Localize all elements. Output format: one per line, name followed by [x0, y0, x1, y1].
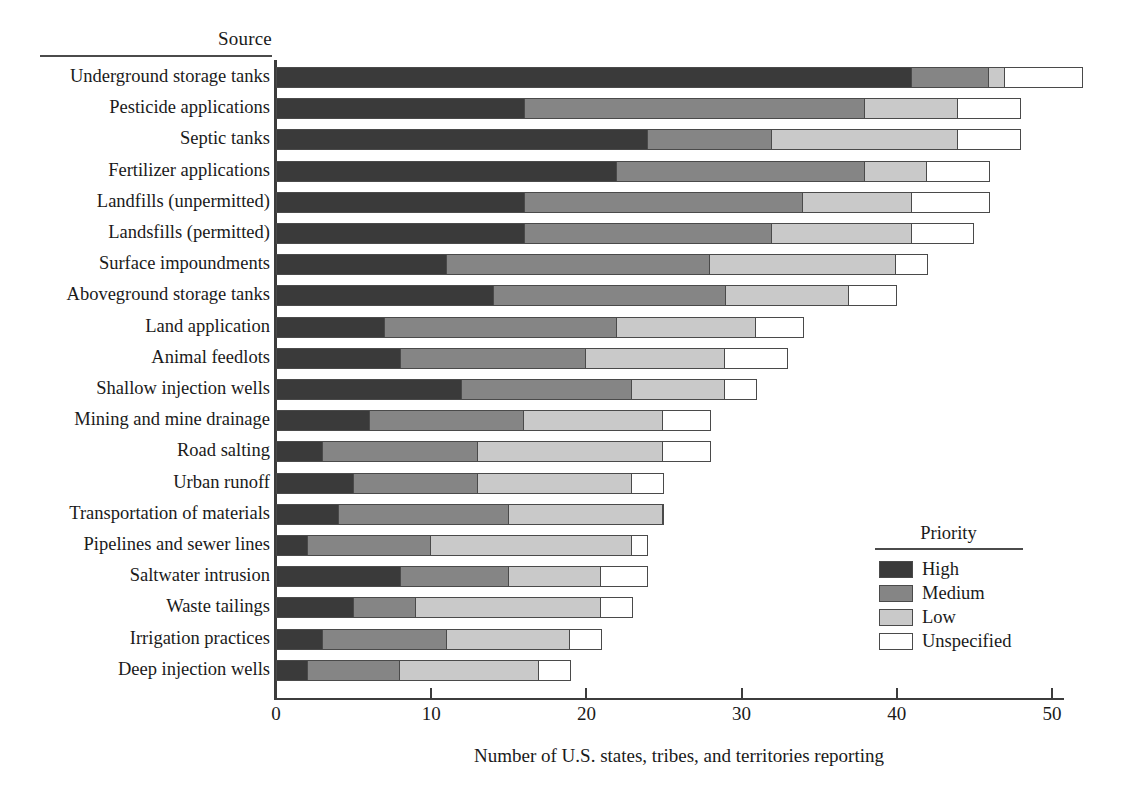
bar-segment-unspecified [1005, 68, 1082, 87]
bar-segment-medium [447, 255, 710, 274]
category-label: Waste tailings [34, 596, 270, 616]
category-label: Landsfills (permitted) [34, 222, 270, 242]
bar-segment-high [277, 68, 912, 87]
category-label: Aboveground storage tanks [34, 284, 270, 304]
stacked-bar[interactable] [276, 223, 974, 244]
chart-row: Aboveground storage tanks [276, 280, 1082, 311]
x-tick-10 [430, 688, 432, 699]
stacked-bar[interactable] [276, 285, 897, 306]
bar-segment-high [277, 474, 354, 493]
bar-segment-low [632, 380, 725, 399]
bar-segment-medium [401, 349, 587, 368]
bar-segment-low [400, 661, 539, 680]
stacked-bar[interactable] [276, 660, 571, 681]
bar-segment-unspecified [958, 99, 1020, 118]
bar-segment-unspecified [632, 474, 663, 493]
chart-row: Urban runoff [276, 468, 1082, 499]
bar-segment-unspecified [725, 380, 756, 399]
bar-segment-unspecified [912, 193, 989, 212]
bar-segment-low [617, 318, 756, 337]
stacked-bar[interactable] [276, 379, 757, 400]
stacked-bar[interactable] [276, 410, 711, 431]
chart-row: Landsfills (permitted) [276, 218, 1082, 249]
bar-segment-unspecified [663, 442, 709, 461]
bar-segment-unspecified [849, 286, 895, 305]
bar-segment-high [277, 630, 323, 649]
bar-segment-high [277, 598, 354, 617]
bar-segment-unspecified [725, 349, 787, 368]
category-label: Animal feedlots [34, 347, 270, 367]
bar-segment-unspecified [663, 411, 709, 430]
bar-segment-low [509, 567, 602, 586]
bar-segment-low [772, 224, 911, 243]
bar-segment-low [416, 598, 601, 617]
stacked-bar[interactable] [276, 597, 633, 618]
bar-segment-high [277, 318, 385, 337]
stacked-bar[interactable] [276, 473, 664, 494]
category-label: Underground storage tanks [34, 66, 270, 86]
stacked-bar[interactable] [276, 441, 711, 462]
category-label: Urban runoff [34, 472, 270, 492]
stacked-bar[interactable] [276, 348, 788, 369]
legend-item[interactable]: Medium [879, 583, 1051, 603]
legend-item[interactable]: Low [879, 607, 1051, 627]
bar-segment-unspecified [896, 255, 927, 274]
source-column-header: Source [40, 28, 272, 50]
bar-segment-unspecified [912, 224, 974, 243]
legend: Priority HighMediumLowUnspecified [846, 522, 1051, 655]
stacked-bar[interactable] [276, 566, 648, 587]
bar-segment-unspecified [632, 536, 647, 555]
bar-segment-low [509, 505, 663, 524]
bar-segment-high [277, 536, 308, 555]
x-tick-40 [896, 688, 898, 699]
bar-segment-high [277, 255, 447, 274]
bar-segment-medium [525, 193, 804, 212]
bar-segment-medium [385, 318, 617, 337]
category-label: Landfills (unpermitted) [34, 191, 270, 211]
x-tick-label-50: 50 [1032, 703, 1072, 725]
bar-segment-low [524, 411, 663, 430]
chart-row: Land application [276, 312, 1082, 343]
stacked-bar[interactable] [276, 161, 990, 182]
stacked-bar[interactable] [276, 535, 648, 556]
bar-segment-medium [354, 598, 416, 617]
bar-segment-medium [401, 567, 509, 586]
stacked-bar[interactable] [276, 254, 928, 275]
chart-row: Mining and mine drainage [276, 405, 1082, 436]
stacked-bar[interactable] [276, 67, 1083, 88]
chart-row: Fertilizer applications [276, 156, 1082, 187]
stacked-bar[interactable] [276, 192, 990, 213]
stacked-bar[interactable] [276, 317, 804, 338]
bar-segment-high [277, 349, 401, 368]
bar-segment-unspecified [756, 318, 802, 337]
x-tick-30 [741, 688, 743, 699]
bar-segment-high [277, 442, 323, 461]
chart-row: Animal feedlots [276, 343, 1082, 374]
bar-segment-medium [354, 474, 478, 493]
stacked-bar[interactable] [276, 129, 1021, 150]
chart-row: Deep injection wells [276, 655, 1082, 686]
bar-segment-unspecified [570, 630, 601, 649]
stacked-bar[interactable] [276, 98, 1021, 119]
bar-segment-high [277, 224, 525, 243]
bar-segment-low [478, 442, 663, 461]
bar-segment-high [277, 162, 617, 181]
category-label: Mining and mine drainage [34, 409, 270, 429]
chart-row: Underground storage tanks [276, 62, 1082, 93]
bar-segment-low [478, 474, 632, 493]
category-label: Saltwater intrusion [34, 565, 270, 585]
bar-segment-medium [462, 380, 632, 399]
x-axis-line [274, 698, 1064, 700]
legend-item[interactable]: High [879, 559, 1051, 579]
legend-label: Low [922, 607, 956, 627]
bar-segment-high [277, 286, 494, 305]
bar-segment-high [277, 380, 462, 399]
bar-segment-medium [308, 536, 432, 555]
legend-item[interactable]: Unspecified [879, 631, 1051, 651]
legend-swatch-icon [879, 633, 913, 650]
x-tick-label-10: 10 [411, 703, 451, 725]
stacked-bar[interactable] [276, 629, 602, 650]
category-label: Pesticide applications [34, 97, 270, 117]
stacked-bar[interactable] [276, 504, 664, 525]
legend-rule [875, 548, 1023, 550]
